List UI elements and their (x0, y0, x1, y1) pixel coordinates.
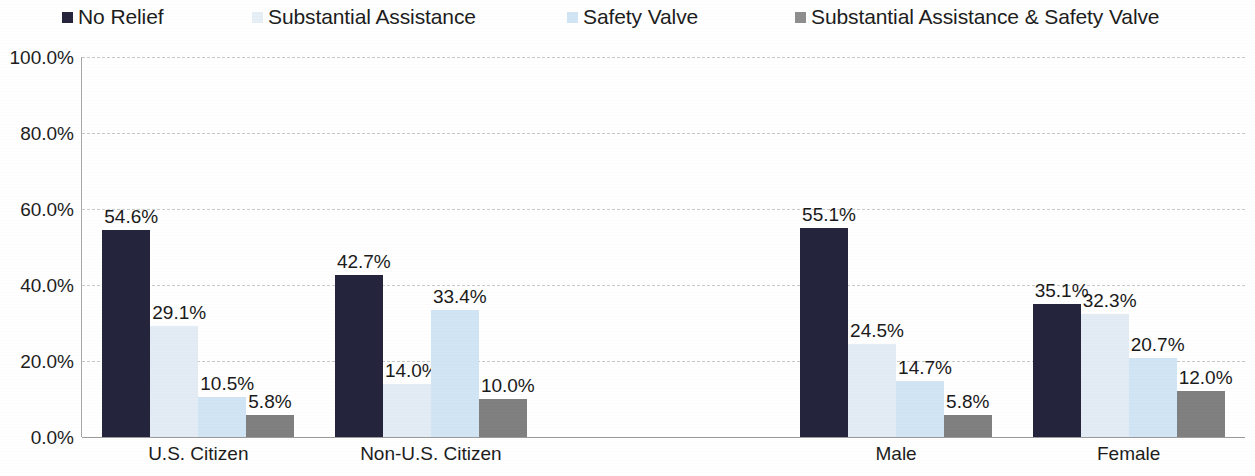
y-axis-tick-label: 60.0% (0, 200, 74, 219)
x-axis-category-label: Male (780, 443, 1013, 465)
x-axis-category-label: Female (1012, 443, 1245, 465)
bar (1177, 391, 1225, 437)
bar (800, 228, 848, 437)
y-axis-tick-label: 80.0% (0, 124, 74, 143)
bar (896, 381, 944, 437)
bar-chart: No ReliefSubstantial AssistanceSafety Va… (0, 0, 1255, 476)
bar-value-label: 24.5% (850, 321, 904, 340)
bar-value-label: 14.7% (898, 358, 952, 377)
gridline (82, 133, 1245, 134)
bar (102, 230, 150, 437)
y-axis-tick-label: 100.0% (0, 48, 74, 67)
bar-value-label: 32.3% (1083, 291, 1137, 310)
y-axis-tick-label: 40.0% (0, 276, 74, 295)
legend-item-2[interactable]: Safety Valve (567, 4, 698, 30)
bar-value-label: 10.0% (481, 376, 535, 395)
legend-item-label: Substantial Assistance & Safety Valve (811, 4, 1159, 30)
bar (944, 415, 992, 437)
bar-value-label: 55.1% (802, 205, 856, 224)
bar-value-label: 33.4% (433, 287, 487, 306)
bar (1081, 314, 1129, 437)
legend-item-label: No Relief (78, 4, 163, 30)
legend-item-label: Safety Valve (583, 4, 698, 30)
bar (848, 344, 896, 437)
bar (1033, 304, 1081, 437)
bar-value-label: 5.8% (946, 392, 989, 411)
x-axis-category-label: Non-U.S. Citizen (315, 443, 548, 465)
bar-value-label: 10.5% (200, 374, 254, 393)
bar (383, 384, 431, 437)
bar-value-label: 35.1% (1035, 281, 1089, 300)
legend-item-label: Substantial Assistance (268, 4, 476, 30)
chart-legend: No ReliefSubstantial AssistanceSafety Va… (0, 0, 1255, 40)
bar (335, 275, 383, 437)
bar (479, 399, 527, 437)
legend-item-3[interactable]: Substantial Assistance & Safety Valve (795, 4, 1159, 30)
bar (1129, 358, 1177, 437)
legend-item-0[interactable]: No Relief (62, 4, 163, 30)
y-axis-line (81, 57, 82, 437)
gridline (82, 209, 1245, 210)
x-axis-category-label: U.S. Citizen (82, 443, 315, 465)
legend-swatch-icon (62, 12, 73, 23)
plot-area: 54.6%29.1%10.5%5.8%U.S. Citizen42.7%14.0… (82, 57, 1245, 437)
bar-value-label: 20.7% (1131, 335, 1185, 354)
bar (431, 310, 479, 437)
bar-value-label: 29.1% (152, 303, 206, 322)
bar-value-label: 12.0% (1179, 368, 1233, 387)
bar-value-label: 42.7% (337, 252, 391, 271)
legend-swatch-icon (252, 12, 263, 23)
legend-swatch-icon (795, 12, 806, 23)
bar (198, 397, 246, 437)
legend-swatch-icon (567, 12, 578, 23)
legend-item-1[interactable]: Substantial Assistance (252, 4, 476, 30)
x-axis-line (82, 437, 1245, 438)
y-axis-tick-label: 20.0% (0, 352, 74, 371)
bar-value-label: 5.8% (248, 392, 291, 411)
bar-value-label: 54.6% (104, 207, 158, 226)
bar (246, 415, 294, 437)
y-axis-tick-label: 0.0% (0, 428, 74, 447)
bar (150, 326, 198, 437)
gridline (82, 57, 1245, 58)
